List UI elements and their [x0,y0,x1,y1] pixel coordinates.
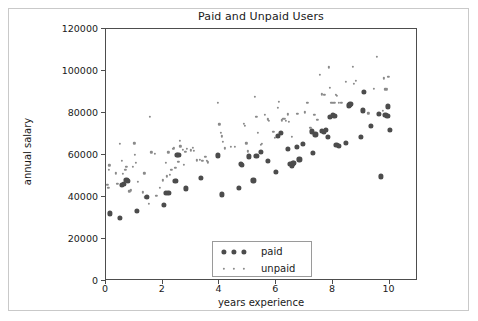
data-point-unpaid [147,203,149,205]
legend-label-unpaid: unpaid [261,263,295,274]
data-point-unpaid [221,135,223,137]
legend-marker-paid [219,243,257,260]
data-point-unpaid [119,143,121,145]
data-point-unpaid [124,169,126,171]
data-point-unpaid [181,148,183,150]
data-point-unpaid [291,136,293,138]
data-point-unpaid [207,161,209,163]
data-point-unpaid [143,172,145,174]
data-point-unpaid [184,151,186,153]
data-point-unpaid [130,189,132,191]
data-point-unpaid [218,123,220,125]
data-point-unpaid [220,132,222,134]
figure-canvas: Paid and Unpaid Users annual salary year… [0,0,478,321]
data-point-unpaid [386,88,388,90]
data-point-unpaid [108,169,110,171]
data-point-paid [359,134,364,139]
data-point-unpaid [296,112,298,114]
data-point-unpaid [159,187,161,189]
data-point-paid [343,141,348,146]
x-tick-label: 4 [198,283,238,294]
data-point-paid [385,113,390,118]
data-point-unpaid [376,56,378,58]
data-point-unpaid [223,147,225,149]
data-point-unpaid [254,96,256,98]
data-point-paid [325,135,330,140]
data-point-paid [108,211,113,216]
data-point-unpaid [276,106,278,108]
data-point-unpaid [120,160,122,162]
data-point-paid [166,190,171,195]
data-point-unpaid [107,187,109,189]
data-point-unpaid [303,111,305,113]
data-point-unpaid [373,88,375,90]
data-point-paid [126,178,131,183]
data-point-unpaid [316,119,318,121]
data-point-unpaid [167,151,169,153]
data-point-paid [348,102,353,107]
data-point-paid [323,127,328,132]
data-point-paid [279,130,284,135]
data-point-unpaid [173,147,175,149]
data-point-paid [310,150,315,155]
data-point-paid [386,104,391,109]
x-tick-label: 10 [369,283,409,294]
data-point-paid [240,162,245,167]
data-point-unpaid [333,102,335,104]
data-point-unpaid [268,120,270,122]
data-point-unpaid [278,101,280,103]
x-tick-mark [105,280,106,284]
data-point-unpaid [381,110,383,112]
data-point-unpaid [367,112,369,114]
data-point-unpaid [186,148,188,150]
x-tick-label: 6 [255,283,295,294]
data-point-paid [198,176,203,181]
data-point-unpaid [132,166,134,168]
legend-marker-unpaid [219,260,257,277]
data-point-unpaid [115,172,117,174]
data-point-paid [176,152,181,157]
data-point-unpaid [323,94,325,96]
data-point-unpaid [170,169,172,171]
legend-label-paid: paid [261,246,283,257]
x-tick-mark [275,280,276,284]
y-tick-label: 60000 [38,149,98,160]
data-point-unpaid [345,81,347,83]
data-point-paid [266,159,271,164]
data-point-paid [362,89,367,94]
data-point-paid [369,123,374,128]
y-tick-label: 20000 [38,233,98,244]
legend-entry-unpaid[interactable]: unpaid [213,260,311,277]
data-point-paid [301,141,306,146]
data-point-paid [173,178,178,183]
data-point-unpaid [166,175,168,177]
data-point-paid [215,153,220,158]
data-point-paid [183,186,188,191]
data-point-unpaid [352,65,354,67]
data-point-paid [336,144,341,149]
data-point-unpaid [179,145,181,147]
data-point-unpaid [244,125,246,127]
data-point-paid [387,128,392,133]
data-point-unpaid [169,174,171,176]
y-tick-label: 40000 [38,191,98,202]
data-point-unpaid [137,181,139,183]
legend-entry-paid[interactable]: paid [213,243,311,260]
data-point-unpaid [286,113,288,115]
data-point-paid [291,160,296,165]
data-point-unpaid [255,116,257,118]
x-tick-mark [389,280,390,284]
y-tick-label: 80000 [38,107,98,118]
data-point-paid [145,194,150,199]
data-point-unpaid [281,119,283,121]
data-point-unpaid [340,102,342,104]
data-point-paid [360,108,365,113]
y-axis-label: annual salary [22,92,33,212]
chart-legend[interactable]: paid unpaid [212,241,312,277]
data-point-unpaid [383,77,385,79]
data-point-paid [376,111,381,116]
data-point-unpaid [245,142,247,144]
data-point-unpaid [329,87,331,89]
data-point-paid [254,154,259,159]
data-point-unpaid [222,140,224,142]
